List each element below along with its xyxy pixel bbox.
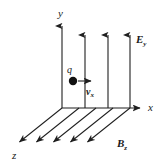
velocity-label: vx [86,86,94,99]
magnetic-field-arrow-group [20,108,131,142]
y-axis-label: y [57,7,63,19]
magnetic-field-label-subscript: z [123,144,127,152]
charge-group [69,77,91,85]
diagram-canvas: y x z Ey Bz q vx [0,0,165,164]
electric-field-arrow-group [62,26,130,108]
x-axis-label: x [147,101,153,113]
physics-diagram-crossed-fields: y x z Ey Bz q vx [0,0,165,164]
charge-label: q [67,64,72,75]
magnetic-field-arrow-3 [54,108,97,142]
magnetic-field-label: Bz [116,137,127,152]
point-charge-dot [69,77,77,85]
velocity-label-subscript: x [89,91,94,99]
magnetic-field-label-base: B [116,137,124,149]
z-axis-line [20,108,63,142]
electric-field-label: Ey [135,33,147,48]
magnetic-field-arrow-2 [37,108,80,142]
electric-field-label-subscript: y [142,40,147,48]
magnetic-field-arrow-4 [71,108,114,142]
z-axis-label: z [11,149,17,161]
electric-field-label-base: E [135,33,143,45]
